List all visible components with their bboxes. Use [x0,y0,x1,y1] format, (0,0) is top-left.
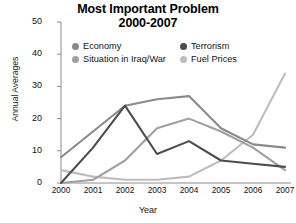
series-line-situation-iraq-war [61,119,285,183]
plot-area [0,0,296,223]
chart-container: Most Important Problem 2000-2007 Economy… [0,0,296,223]
